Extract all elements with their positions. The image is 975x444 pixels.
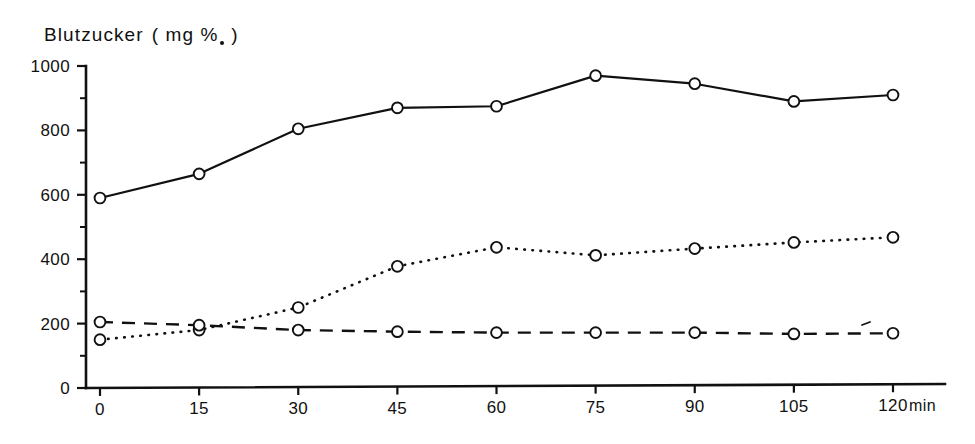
stray-marks-group — [862, 322, 870, 325]
plot-area: 020040060080010000153045607590105120min — [0, 0, 975, 444]
data-point-marker — [491, 242, 502, 253]
x-axis-unit-label: min — [909, 397, 936, 414]
x-tick-label: 0 — [95, 400, 105, 419]
y-tick-label: 1000 — [31, 57, 70, 76]
data-point-marker — [788, 329, 799, 340]
data-point-marker — [95, 317, 106, 328]
data-point-marker — [95, 193, 106, 204]
data-point-marker — [491, 101, 502, 112]
data-point-marker — [590, 70, 601, 81]
y-tick-label: 0 — [60, 379, 70, 398]
x-tick-label: 15 — [189, 399, 209, 418]
x-tick-label: 60 — [487, 398, 507, 417]
x-tick-label: 90 — [685, 397, 705, 416]
series-line-solid-series — [100, 76, 893, 198]
data-point-marker — [392, 326, 403, 337]
y-tick-label: 800 — [40, 121, 70, 140]
x-tick-label: 120 — [878, 396, 908, 415]
data-point-marker — [491, 327, 502, 338]
series-group — [95, 70, 899, 345]
data-point-marker — [194, 168, 205, 179]
data-point-marker — [293, 302, 304, 313]
x-axis-line — [86, 384, 945, 388]
x-tick-label: 75 — [586, 398, 606, 417]
x-tick-label: 30 — [288, 399, 308, 418]
data-point-marker — [888, 328, 899, 339]
x-tick-label: 105 — [779, 397, 809, 416]
x-tick-label: 45 — [388, 399, 408, 418]
data-point-marker — [293, 123, 304, 134]
data-point-marker — [95, 334, 106, 345]
data-point-marker — [590, 327, 601, 338]
y-tick-label: 200 — [40, 315, 70, 334]
y-tick-label: 400 — [40, 250, 70, 269]
stray-tick-mark — [862, 322, 870, 325]
data-point-marker — [590, 250, 601, 261]
data-point-marker — [788, 237, 799, 248]
data-point-marker — [788, 96, 799, 107]
data-point-marker — [293, 325, 304, 336]
axes-group — [77, 66, 945, 396]
data-point-marker — [888, 90, 899, 101]
data-point-marker — [888, 232, 899, 243]
chart-figure: Blutzucker( mg % ) 020040060080010000153… — [0, 0, 975, 444]
data-point-marker — [392, 102, 403, 113]
data-point-marker — [194, 320, 205, 331]
data-point-marker — [689, 243, 700, 254]
y-tick-label: 600 — [40, 186, 70, 205]
data-point-marker — [689, 327, 700, 338]
data-point-marker — [689, 78, 700, 89]
axis-labels-group: 020040060080010000153045607590105120min — [31, 57, 936, 419]
data-point-marker — [392, 261, 403, 272]
